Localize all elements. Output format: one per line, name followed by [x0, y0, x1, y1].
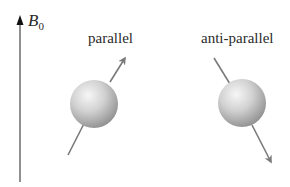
anti-parallel-arrow-icon — [252, 125, 271, 162]
anti-parallel-sphere — [218, 79, 266, 127]
spin-alignment-diagram: B0 parallel anti-parallel — [0, 0, 290, 187]
magnetic-field-axis: B0 — [17, 11, 45, 182]
parallel-arrow-icon — [110, 58, 125, 82]
anti-parallel-label: anti-parallel — [201, 30, 273, 46]
field-arrow-head-icon — [17, 15, 24, 25]
anti-parallel-arrow-tail — [214, 58, 230, 84]
parallel-sphere — [70, 80, 118, 128]
parallel-label: parallel — [88, 30, 133, 46]
field-label: B0 — [28, 11, 44, 32]
parallel-spin: parallel — [68, 30, 133, 155]
anti-parallel-spin: anti-parallel — [201, 30, 273, 162]
